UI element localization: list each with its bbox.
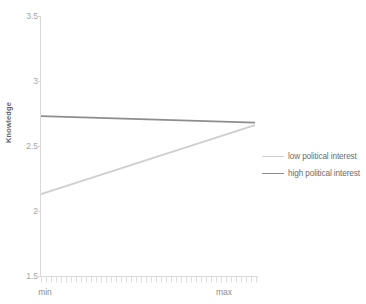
legend-item-high-political-interest[interactable]: high political interest (262, 165, 366, 182)
chart-container: Knowledge 3.5 3 2.5 2 1.5 min max (0, 0, 366, 304)
series-line-high-political-interest (41, 116, 255, 123)
x-axis-ticks (42, 277, 257, 283)
legend-swatch-icon-high (262, 173, 284, 174)
series-line-low-political-interest (41, 125, 255, 194)
legend-swatch-icon-low (262, 156, 284, 157)
y-axis-ticks (37, 17, 41, 277)
legend-label-high: high political interest (288, 169, 360, 178)
legend: low political interest high political in… (262, 148, 366, 182)
legend-label-low: low political interest (288, 152, 357, 161)
legend-item-low-political-interest[interactable]: low political interest (262, 148, 366, 165)
